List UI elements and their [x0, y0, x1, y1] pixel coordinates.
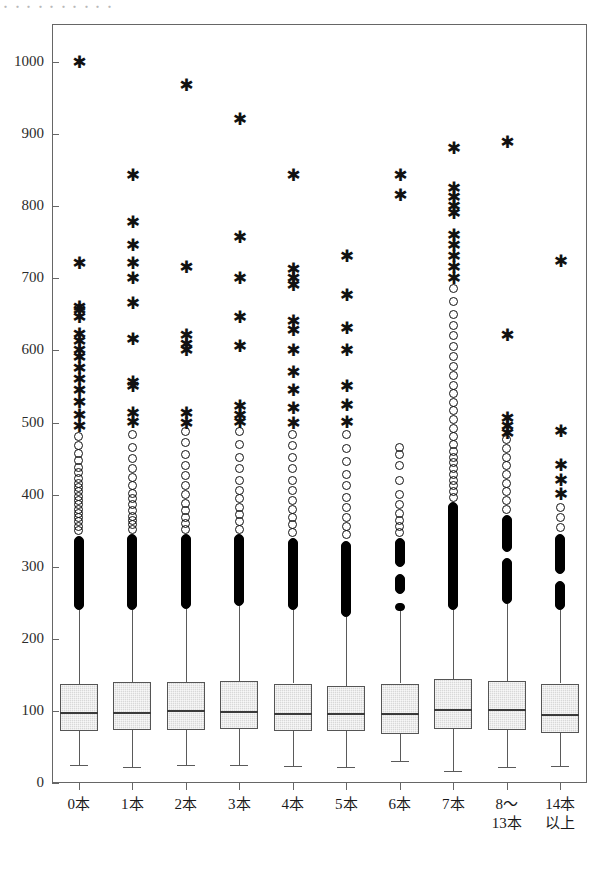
y-axis-tick-label: 900: [0, 126, 44, 141]
median-line: [60, 712, 98, 714]
whisker-lower: [132, 730, 133, 767]
outlier-circle: [449, 415, 458, 424]
whisker-cap-lower: [70, 765, 88, 766]
outlier-dense-cluster: [555, 534, 565, 574]
box-iqr: [327, 686, 365, 731]
whisker-cap-lower: [391, 761, 409, 762]
outlier-asterisk: ✱: [340, 399, 353, 412]
outlier-circle: [235, 440, 244, 449]
outlier-asterisk: ✱: [447, 229, 460, 242]
whisker-lower: [453, 729, 454, 772]
median-line: [541, 714, 579, 716]
median-line: [327, 713, 365, 715]
outlier-dense-cluster: [288, 538, 298, 610]
x-axis-tick-mark: [453, 783, 454, 790]
outlier-asterisk: ✱: [72, 328, 85, 341]
outlier-dense-cluster: [395, 574, 405, 594]
y-axis-tick-label: 800: [0, 198, 44, 213]
outlier-asterisk: ✱: [126, 333, 139, 346]
outlier-asterisk: ✱: [233, 231, 246, 244]
outlier-circle: [342, 444, 351, 453]
whisker-lower: [186, 730, 187, 765]
outlier-asterisk: ✱: [286, 344, 299, 357]
y-axis-tick-mark: [52, 639, 59, 640]
whisker-upper: [293, 610, 294, 684]
outlier-circle: [288, 476, 297, 485]
outlier-circle: [449, 398, 458, 407]
whisker-lower: [507, 730, 508, 767]
outlier-asterisk: ✱: [126, 376, 139, 389]
outlier-circle: [395, 476, 404, 485]
y-axis-tick-mark: [52, 783, 59, 784]
median-line: [381, 713, 419, 715]
outlier-circle: [342, 503, 351, 512]
outlier-dense-cluster: [234, 534, 244, 606]
whisker-upper: [132, 610, 133, 682]
box-iqr: [381, 684, 419, 734]
outlier-asterisk: ✱: [340, 289, 353, 302]
outlier-circle: [449, 342, 458, 351]
outlier-asterisk: ✱: [126, 272, 139, 285]
median-line: [220, 711, 258, 713]
median-line: [113, 712, 151, 714]
outlier-asterisk: ✱: [286, 384, 299, 397]
outlier-asterisk: ✱: [233, 400, 246, 413]
whisker-cap-lower: [230, 765, 248, 766]
whisker-lower: [239, 729, 240, 765]
whisker-cap-lower: [284, 766, 302, 767]
outlier-circle: [128, 454, 137, 463]
outlier-dense-cluster: [448, 502, 458, 610]
y-axis-tick-label: 0: [0, 775, 44, 790]
box-iqr: [274, 684, 312, 732]
outlier-asterisk: ✱: [126, 407, 139, 420]
outlier-asterisk: ✱: [554, 488, 567, 501]
box-iqr: [220, 681, 258, 729]
whisker-cap-lower: [123, 767, 141, 768]
outlier-asterisk: ✱: [500, 329, 513, 342]
box-iqr: [488, 681, 526, 730]
median-line: [274, 713, 312, 715]
box-iqr: [60, 684, 98, 731]
outlier-asterisk: ✱: [233, 113, 246, 126]
outlier-asterisk: ✱: [447, 182, 460, 195]
outlier-asterisk: ✱: [126, 239, 139, 252]
outlier-dense-cluster: [74, 536, 84, 610]
y-axis-tick-label: 400: [0, 487, 44, 502]
outlier-circle: [235, 476, 244, 485]
outlier-asterisk: ✱: [72, 301, 85, 314]
y-axis-tick-label: 1000: [0, 54, 44, 69]
whisker-lower: [79, 731, 80, 765]
y-axis-tick-label: 600: [0, 342, 44, 357]
outlier-circle: [556, 503, 565, 512]
outlier-circle: [449, 352, 458, 361]
x-axis-tick-mark: [186, 783, 187, 790]
y-axis-tick-mark: [52, 423, 59, 424]
outlier-circle: [288, 505, 297, 514]
outlier-asterisk: ✱: [340, 380, 353, 393]
outlier-circle: [556, 523, 565, 532]
outlier-asterisk: ✱: [179, 329, 192, 342]
whisker-upper: [239, 606, 240, 680]
outlier-circle: [288, 453, 297, 462]
whisker-lower: [346, 731, 347, 767]
outlier-asterisk: ✱: [447, 142, 460, 155]
outlier-asterisk: ✱: [126, 297, 139, 310]
x-axis-tick-mark: [507, 783, 508, 790]
outlier-asterisk: ✱: [286, 366, 299, 379]
outlier-circle: [235, 525, 244, 534]
x-axis-tick-mark: [132, 783, 133, 790]
outlier-dense-cluster: [395, 603, 405, 612]
outlier-circle: [502, 505, 511, 514]
outlier-dense-cluster: [502, 515, 512, 552]
y-axis-tick-mark: [52, 567, 59, 568]
x-axis-tick-mark: [560, 783, 561, 790]
outlier-circle: [449, 424, 458, 433]
outlier-asterisk: ✱: [126, 257, 139, 270]
outlier-asterisk: ✱: [233, 311, 246, 324]
whisker-cap-lower: [444, 771, 462, 772]
outlier-circle: [128, 473, 137, 482]
outlier-asterisk: ✱: [340, 250, 353, 263]
y-axis-tick-label: 300: [0, 559, 44, 574]
outlier-dense-cluster: [502, 558, 512, 604]
y-axis-tick-mark: [52, 206, 59, 207]
